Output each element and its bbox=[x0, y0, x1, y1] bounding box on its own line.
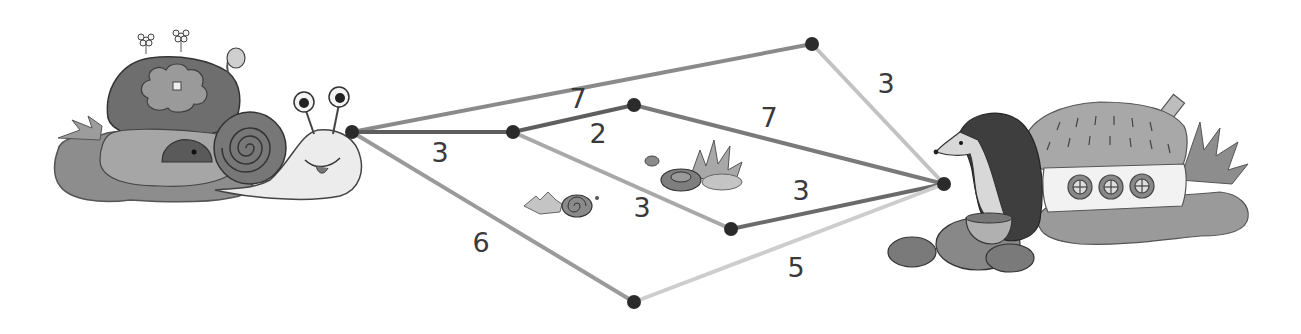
snail-house-illustration bbox=[55, 30, 362, 202]
grass-tuft-icon bbox=[58, 116, 102, 140]
weight-C-E: 7 bbox=[760, 102, 777, 133]
node-D bbox=[805, 37, 819, 51]
node-A bbox=[345, 125, 359, 139]
weight-A-B: 3 bbox=[431, 137, 448, 168]
grass-tuft-icon bbox=[1180, 122, 1248, 184]
node-G bbox=[724, 222, 738, 236]
flower-icon bbox=[138, 30, 189, 54]
node-F bbox=[627, 295, 641, 309]
weight-D-E: 3 bbox=[877, 68, 894, 99]
keyhole-icon bbox=[192, 150, 197, 155]
weight-A-F: 6 bbox=[472, 227, 489, 258]
path-graph-diagram: 7 3 6 2 3 7 3 3 5 bbox=[0, 0, 1301, 334]
weight-G-E: 3 bbox=[792, 175, 809, 206]
window-icon bbox=[173, 82, 181, 90]
weight-B-C: 2 bbox=[589, 118, 606, 149]
graph-edges bbox=[352, 44, 944, 302]
edge-G-E bbox=[731, 184, 944, 229]
weight-A-D: 7 bbox=[569, 83, 586, 114]
weight-F-E: 5 bbox=[787, 252, 804, 283]
grass-with-stone-decoration bbox=[645, 140, 742, 191]
snail-eyes-icon bbox=[294, 87, 349, 134]
snail-shell-decoration bbox=[524, 192, 599, 217]
node-C bbox=[627, 98, 641, 112]
round-window-icons bbox=[1068, 174, 1154, 199]
node-B bbox=[506, 125, 520, 139]
mushroom-icon bbox=[227, 48, 245, 72]
node-E bbox=[937, 177, 951, 191]
edge-A-F bbox=[352, 132, 634, 302]
snail-shell-icon bbox=[214, 112, 286, 184]
thatched-roof bbox=[1024, 102, 1187, 170]
edge-D-E bbox=[812, 44, 944, 184]
graph-nodes bbox=[345, 37, 951, 309]
weight-B-G: 3 bbox=[633, 192, 650, 223]
